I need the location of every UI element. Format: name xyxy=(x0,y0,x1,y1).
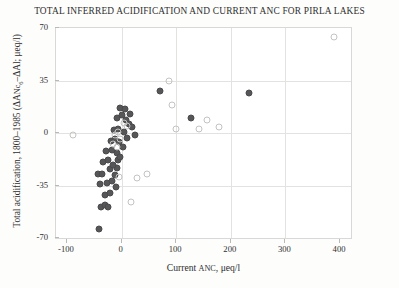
x-tick-mark xyxy=(175,239,176,243)
x-tick-label: 300 xyxy=(264,244,304,254)
plot-area xyxy=(55,27,352,239)
y-tick-mark xyxy=(55,132,59,133)
data-point-filled xyxy=(127,110,134,117)
x-axis-title: Current ANC, μeq/l xyxy=(55,262,352,273)
data-point-filled xyxy=(246,89,253,96)
data-point-open xyxy=(124,122,131,129)
data-point-filled xyxy=(131,131,138,138)
data-point-open xyxy=(215,124,222,131)
data-point-filled xyxy=(117,154,124,161)
x-tick-label: -100 xyxy=(46,244,86,254)
data-point-filled xyxy=(119,143,126,150)
data-point-filled xyxy=(156,88,163,95)
data-point-open xyxy=(116,173,123,180)
data-point-open xyxy=(143,170,150,177)
scatter-chart-figure: TOTAL INFERRED ACIDIFICATION AND CURRENT… xyxy=(0,0,399,288)
x-tick-mark xyxy=(121,239,122,243)
x-tick-label: 200 xyxy=(210,244,250,254)
data-point-open xyxy=(203,116,210,123)
data-point-filled xyxy=(98,170,105,177)
data-point-open xyxy=(115,128,122,135)
data-point-open xyxy=(133,175,140,182)
y-tick-label: -70 xyxy=(22,232,48,242)
data-point-filled xyxy=(96,181,103,188)
data-point-open xyxy=(168,101,175,108)
data-point-open xyxy=(113,143,120,150)
gridline-horizontal xyxy=(56,133,351,134)
x-tick-label: 100 xyxy=(155,244,195,254)
data-point-open xyxy=(128,199,135,206)
y-tick-label: -35 xyxy=(22,180,48,190)
y-axis-title: Total acidification, 1800–1985 (ΔANc6–ΔA… xyxy=(12,21,24,241)
y-tick-mark xyxy=(55,237,59,238)
y-tick-label: 35 xyxy=(22,75,48,85)
x-tick-label: 0 xyxy=(101,244,141,254)
data-point-open xyxy=(117,136,124,143)
data-point-open xyxy=(173,125,180,132)
x-tick-mark xyxy=(339,239,340,243)
y-tick-mark xyxy=(55,185,59,186)
x-tick-label: 400 xyxy=(319,244,359,254)
data-point-open xyxy=(70,131,77,138)
data-point-filled xyxy=(95,226,102,233)
y-tick-mark xyxy=(55,27,59,28)
y-tick-label: 0 xyxy=(22,127,48,137)
y-tick-mark xyxy=(55,80,59,81)
data-point-filled xyxy=(124,134,131,141)
data-point-filled xyxy=(188,115,195,122)
data-point-filled xyxy=(104,203,111,210)
x-tick-mark xyxy=(230,239,231,243)
data-point-filled xyxy=(113,184,120,191)
x-tick-mark xyxy=(284,239,285,243)
data-point-open xyxy=(330,34,337,41)
data-point-open xyxy=(165,77,172,84)
data-point-open xyxy=(196,125,203,132)
x-tick-mark xyxy=(66,239,67,243)
chart-title: TOTAL INFERRED ACIDIFICATION AND CURRENT… xyxy=(0,6,399,16)
y-tick-label: 70 xyxy=(22,22,48,32)
gridline-horizontal xyxy=(56,81,351,82)
data-point-filled xyxy=(106,190,113,197)
